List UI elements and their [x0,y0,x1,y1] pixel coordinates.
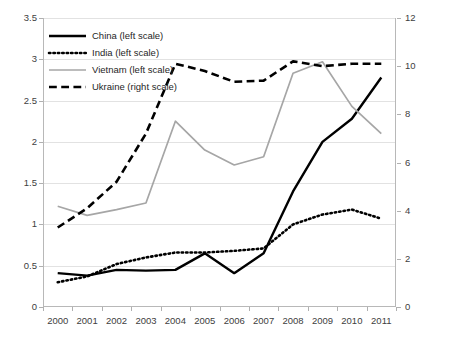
legend-item-label: Vietnam (left scale) [88,64,173,75]
x-axis-tick-label: 2011 [361,316,401,326]
legend-item-india[interactable]: India (left scale) [47,44,215,61]
x-axis-tick-mark [220,307,221,311]
y-axis-tick-label: 3.5 [3,13,37,23]
legend-item-label: Ukraine (right scale) [88,81,177,92]
y-axis-tick-label: 3 [3,54,37,64]
legend-item-label: China (left scale) [88,30,163,41]
y2-axis-tick-mark [397,307,401,308]
legend-item-ukraine[interactable]: Ukraine (right scale) [47,78,215,95]
y-axis-tick-label: 2.5 [3,96,37,106]
x-axis-tick-mark [249,307,250,311]
x-axis-tick-mark [131,307,132,311]
x-axis-tick-mark [278,307,279,311]
y2-axis-tick-mark [397,211,401,212]
y2-axis-tick-mark [397,114,401,115]
x-axis-tick-mark [43,307,44,311]
y-axis-tick-label: 0.5 [3,261,37,271]
legend-item-label: India (left scale) [88,47,159,58]
y2-axis-tick-label: 8 [405,109,439,119]
solid-black-line-icon [47,30,88,42]
x-axis-tick-mark [161,307,162,311]
y2-axis-tick-mark [397,66,401,67]
x-axis-tick-mark [396,307,397,311]
y2-axis-tick-label: 6 [405,158,439,168]
x-axis-tick-mark [102,307,103,311]
x-axis-tick-mark [337,307,338,311]
x-axis-tick-mark [72,307,73,311]
dotted-black-line-icon [47,47,88,59]
y2-axis-tick-mark [397,163,401,164]
y2-axis-tick-label: 12 [405,13,439,23]
solid-gray-line-icon [47,64,88,76]
y2-axis-tick-mark [397,259,401,260]
chart-container: 00.511.522.533.5 024681012 2000200120022… [0,0,452,345]
y2-axis-tick-label: 0 [405,302,439,312]
legend-item-china[interactable]: China (left scale) [47,27,215,44]
y2-axis-tick-label: 2 [405,254,439,264]
y-axis-tick-label: 1.5 [3,178,37,188]
x-axis-tick-mark [190,307,191,311]
chart-legend: China (left scale)India (left scale)Viet… [47,27,215,95]
series-line-china [58,77,382,275]
y-axis-tick-label: 1 [3,219,37,229]
x-axis-tick-mark [367,307,368,311]
y-axis-tick-label: 2 [3,137,37,147]
y-axis-tick-label: 0 [3,302,37,312]
x-axis-tick-mark [308,307,309,311]
y2-axis-tick-mark [397,18,401,19]
legend-item-vietnam[interactable]: Vietnam (left scale) [47,61,215,78]
y2-axis-tick-label: 4 [405,206,439,216]
dashed-black-line-icon [47,81,88,93]
y2-axis-tick-label: 10 [405,61,439,71]
